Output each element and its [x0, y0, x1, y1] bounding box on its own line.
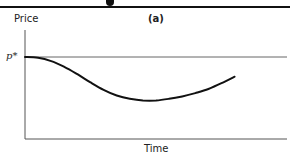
plot-area [0, 0, 294, 168]
price-curve [25, 57, 235, 101]
